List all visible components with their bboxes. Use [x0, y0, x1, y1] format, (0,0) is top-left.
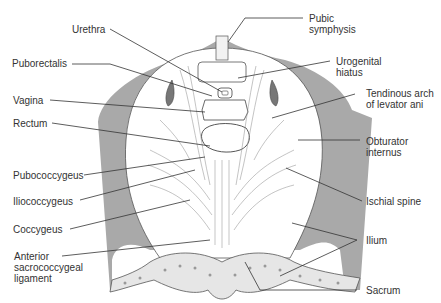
label-sacrum: Sacrum [366, 285, 400, 296]
label-anterior-sacrococcygeal-ligament: Anterior sacrococcygeal ligament [14, 251, 83, 284]
label-pubococcygeus: Pubococcygeus [13, 170, 84, 181]
label-coccygeus: Coccygeus [13, 224, 62, 235]
label-pubic-symphysis: Pubic symphysis [309, 13, 356, 35]
vagina-shape [202, 100, 248, 120]
label-obturator-internus: Obturator internus [366, 136, 408, 158]
label-ischial-spine: Ischial spine [366, 196, 421, 207]
label-rectum: Rectum [13, 118, 47, 129]
pubic-symphysis-shape [216, 36, 228, 60]
urethra-shape [198, 62, 246, 82]
label-iliococcygeus: Iliococcygeus [13, 196, 73, 207]
label-urogenital-hiatus: Urogenital hiatus [336, 56, 382, 78]
label-urethra: Urethra [72, 24, 105, 35]
label-puborectalis: Puborectalis [12, 58, 67, 69]
pelvic-floor-diagram: Urethra Puborectalis Vagina Rectum Puboc… [0, 0, 441, 303]
label-ilium: Ilium [366, 235, 387, 246]
label-vagina: Vagina [13, 95, 43, 106]
label-tendinous-arch: Tendinous arch of levator ani [366, 88, 434, 110]
